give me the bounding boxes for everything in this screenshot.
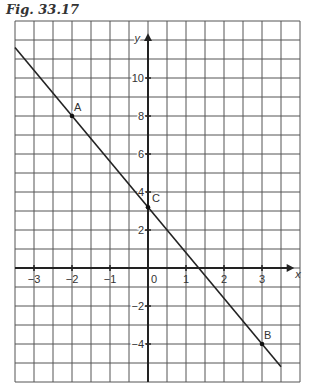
data-point-label: B [264, 329, 271, 341]
data-point-label: A [74, 101, 82, 113]
y-tick-label: −4 [131, 338, 144, 350]
y-tick-label: −2 [131, 300, 144, 312]
line-chart: −3−2−10123−4−2246810xyABC [0, 0, 309, 391]
y-tick-label: 8 [138, 110, 144, 122]
x-axis-label: x [294, 268, 301, 280]
data-point [70, 114, 75, 119]
x-tick-label: 3 [259, 273, 265, 285]
x-tick-label: 0 [151, 273, 157, 285]
data-point-label: C [152, 192, 160, 204]
y-axis-arrow-icon [144, 33, 152, 41]
x-tick-label: −1 [104, 273, 117, 285]
y-tick-label: 6 [138, 148, 144, 160]
y-tick-label: 10 [132, 72, 144, 84]
x-axis-arrow-icon [287, 264, 295, 272]
x-tick-label: 1 [183, 273, 189, 285]
x-tick-label: −2 [66, 273, 79, 285]
x-tick-label: −3 [28, 273, 41, 285]
x-tick-label: 2 [221, 273, 227, 285]
data-point [260, 342, 265, 347]
y-tick-label: 2 [138, 224, 144, 236]
data-point [146, 205, 151, 210]
y-axis-label: y [134, 32, 142, 44]
